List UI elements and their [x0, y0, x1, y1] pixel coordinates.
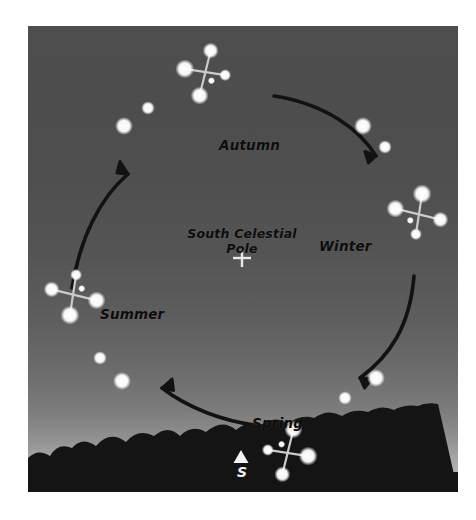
- season-label-spring: Spring: [252, 415, 303, 431]
- crux-winter: [379, 175, 457, 249]
- pointer-stars-autumn: [115, 101, 155, 135]
- compass-south-label: S: [231, 464, 253, 480]
- pole-label-line2: Pole: [226, 241, 257, 256]
- figure-root: Autumn Winter Spring Summer South Celest…: [0, 0, 476, 520]
- pole-label: South Celestial Pole: [169, 226, 315, 256]
- sky-scene: [28, 26, 458, 492]
- pole-label-line1: South Celestial: [187, 226, 297, 241]
- crux-autumn: [166, 34, 240, 112]
- sky-panel: Autumn Winter Spring Summer South Celest…: [28, 26, 458, 492]
- season-arrow-summer-to-autumn: [72, 162, 128, 289]
- season-arrow-winter-to-spring: [360, 276, 414, 388]
- season-arrow-spring-to-summer: [162, 379, 262, 426]
- pointer-stars-spring: [338, 369, 385, 405]
- season-label-winter: Winter: [319, 238, 372, 254]
- crux-summer: [35, 260, 113, 334]
- season-label-autumn: Autumn: [219, 137, 280, 153]
- pointer-stars-summer: [93, 351, 131, 390]
- season-label-summer: Summer: [100, 306, 164, 322]
